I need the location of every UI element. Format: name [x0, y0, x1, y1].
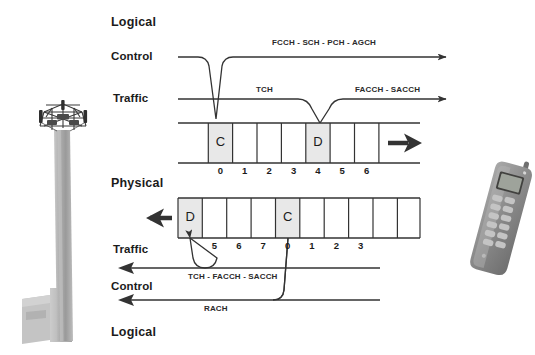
downlink-traffic-channel-label: TCH	[256, 85, 273, 94]
downlink-slot-number-2: 2	[257, 165, 281, 176]
uplink-slot-number-4: 0	[276, 240, 300, 251]
uplink-traffic-channels-label: TCH - FACCH - SACCH	[188, 272, 278, 281]
physical-section-label: Physical	[111, 176, 163, 190]
downlink-traffic-row-label: Traffic	[113, 92, 148, 104]
uplink-arrowheads-layer	[0, 0, 535, 355]
downlink-slot-number-1: 1	[233, 165, 257, 176]
downlink-slot-content-0: C	[208, 134, 232, 149]
uplink-slot-number-2: 6	[227, 240, 251, 251]
diagram-canvas: Logical Control Traffic FCCH - SCH - PCH…	[0, 0, 535, 355]
downlink-section-label: Logical	[111, 15, 156, 29]
uplink-slot-number-7: 3	[349, 240, 373, 251]
downlink-slot-number-3: 3	[281, 165, 305, 176]
uplink-slot-number-1: 5	[202, 240, 226, 251]
uplink-control-row-label: Control	[111, 280, 153, 292]
bottom-logical-section-label: Logical	[111, 325, 156, 339]
downlink-slot-number-6: 6	[355, 165, 379, 176]
uplink-slot-content-d: D	[178, 209, 202, 224]
downlink-control-row-label: Control	[111, 50, 153, 62]
downlink-slot-number-0: 0	[208, 165, 232, 176]
downlink-control-channels-label: FCCH - SCH - PCH - AGCH	[272, 38, 376, 47]
downlink-slot-number-4: 4	[306, 165, 330, 176]
downlink-assoc-channels-label: FACCH - SACCH	[355, 85, 420, 94]
downlink-slot-number-5: 5	[330, 165, 354, 176]
uplink-slot-content-c: C	[276, 209, 300, 224]
uplink-slot-number-6: 2	[324, 240, 348, 251]
uplink-slot-number-3: 7	[251, 240, 275, 251]
downlink-slot-content-4: D	[306, 134, 330, 149]
uplink-control-channel-label: RACH	[204, 304, 228, 313]
uplink-slot-number-5: 1	[300, 240, 324, 251]
uplink-traffic-row-label: Traffic	[113, 243, 148, 255]
